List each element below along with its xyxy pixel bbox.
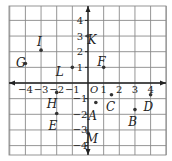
- y-tick-label: 1: [77, 62, 83, 73]
- point-d: D: [142, 93, 153, 114]
- x-tick-label: −4: [18, 84, 33, 95]
- point-c: C: [106, 93, 115, 114]
- point-dot-icon: [71, 66, 75, 70]
- point-b: B: [127, 108, 137, 129]
- y-tick-label: −2: [73, 109, 88, 120]
- point-label: I: [36, 35, 42, 49]
- point-dot-icon: [55, 91, 59, 95]
- point-label: G: [16, 56, 26, 70]
- y-tick-label: 4: [77, 15, 83, 26]
- point-dot-icon: [149, 93, 153, 97]
- point-a: A: [87, 101, 97, 123]
- point-label: M: [85, 132, 99, 146]
- point-label: B: [127, 115, 137, 129]
- point-dot-icon: [55, 112, 59, 116]
- x-tick-label: 2: [116, 84, 122, 95]
- coordinate-grid: −4−3−2−112344321−1−2−3−4O KIGLFHEACDBM: [0, 0, 172, 161]
- point-f: F: [96, 55, 106, 69]
- x-axis-arrow-icon: [160, 81, 166, 86]
- y-axis-arrow-icon: [86, 6, 91, 12]
- point-label: A: [87, 109, 97, 123]
- point-label: H: [46, 97, 58, 111]
- point-dot-icon: [110, 93, 114, 97]
- point-label: E: [47, 119, 57, 133]
- point-g: G: [16, 56, 27, 70]
- point-label: L: [55, 65, 64, 79]
- point-e: E: [47, 112, 58, 133]
- x-tick-label: 1: [100, 84, 106, 95]
- y-tick-label: 2: [77, 46, 83, 57]
- point-label: K: [86, 33, 97, 47]
- point-dot-icon: [94, 101, 98, 105]
- point-m: M: [85, 131, 99, 145]
- point-label: D: [142, 100, 153, 114]
- point-k: K: [86, 33, 97, 47]
- point-dot-icon: [133, 108, 137, 112]
- x-tick-label: 3: [132, 84, 138, 95]
- y-tick-label: −1: [73, 93, 88, 104]
- x-tick-label: −3: [34, 84, 49, 95]
- y-tick-label: 3: [77, 31, 83, 42]
- point-label: F: [96, 55, 106, 69]
- point-label: C: [106, 100, 115, 114]
- origin-label: O: [90, 84, 98, 95]
- point-i: I: [36, 35, 43, 52]
